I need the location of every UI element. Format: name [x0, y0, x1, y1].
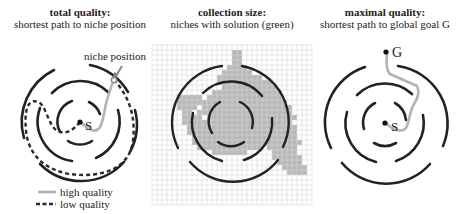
legend-label-high-quality: high quality — [60, 186, 113, 198]
goal-label: G — [392, 45, 402, 60]
maze-wall — [357, 84, 412, 95]
maze-wall — [96, 110, 120, 158]
maze-wall — [396, 115, 424, 161]
start-label: S — [391, 119, 398, 134]
start-label: S — [85, 118, 92, 133]
maze-wall — [89, 102, 100, 114]
legend-label-low-quality: low quality — [60, 198, 110, 210]
low-quality-path — [26, 80, 134, 175]
legend: high quality low quality — [36, 186, 113, 210]
diagram-canvas: niche position S high quality low qualit… — [0, 0, 464, 214]
maze-wall — [40, 162, 124, 181]
maze-wall — [190, 160, 278, 182]
niche-position-marker — [111, 77, 116, 82]
start-dot — [382, 120, 387, 125]
maze-wall — [90, 65, 128, 92]
maze-wall — [325, 67, 365, 148]
goal-dot — [383, 49, 388, 54]
maze-wall — [345, 112, 376, 162]
maze-wall — [363, 103, 375, 129]
maze-wall — [395, 103, 406, 120]
maze-wall — [57, 101, 72, 132]
start-dot — [77, 119, 82, 124]
maze-wall — [374, 143, 396, 146]
maze-wall — [38, 108, 72, 161]
maze-wall — [342, 163, 430, 184]
maze-wall — [68, 141, 92, 145]
niche-position-label: niche position — [84, 50, 147, 62]
maze-wall — [52, 81, 108, 93]
